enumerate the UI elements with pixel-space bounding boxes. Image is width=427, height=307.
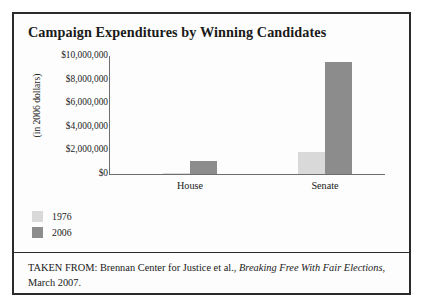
bar-house-1976 [163,173,190,174]
chart-legend: 1976 2006 [32,210,72,242]
bar-senate-1976 [298,152,325,174]
y-tick-label: $0 [30,169,108,178]
legend-label-2006: 2006 [52,227,72,238]
y-tick-label: $4,000,000 [30,122,108,131]
y-tick-label: $6,000,000 [30,98,108,107]
y-tick-label: $8,000,000 [30,75,108,84]
plot-area-wrapper: (in 2006 dollars) $0$2,000,000$4,000,000… [14,56,409,201]
chart-title: Campaign Expenditures by Winning Candida… [28,24,326,41]
y-tick-label: $2,000,000 [30,146,108,155]
bar-house-2006 [190,161,217,174]
bar-senate-2006 [325,62,352,174]
plot-area: HouseSenate [109,56,385,175]
legend-item-1976: 1976 [32,210,72,223]
source-title: Breaking Free With Fair Elections [239,262,383,273]
x-axis-label-house: House [177,180,203,191]
source-note: TAKEN FROM: Brennan Center for Justice e… [28,260,396,290]
legend-swatch-1976 [32,211,43,222]
x-axis-label-senate: Senate [311,180,338,191]
legend-item-2006: 2006 [32,226,72,239]
y-tick-label: $10,000,000 [30,51,108,60]
legend-swatch-2006 [32,227,43,238]
y-axis-tick-labels: $0$2,000,000$4,000,000$6,000,000$8,000,0… [30,56,108,174]
figure-frame: Campaign Expenditures by Winning Candida… [12,12,411,295]
source-divider [14,252,409,253]
source-prefix: TAKEN FROM: Brennan Center for Justice e… [28,262,239,273]
legend-label-1976: 1976 [52,211,72,222]
